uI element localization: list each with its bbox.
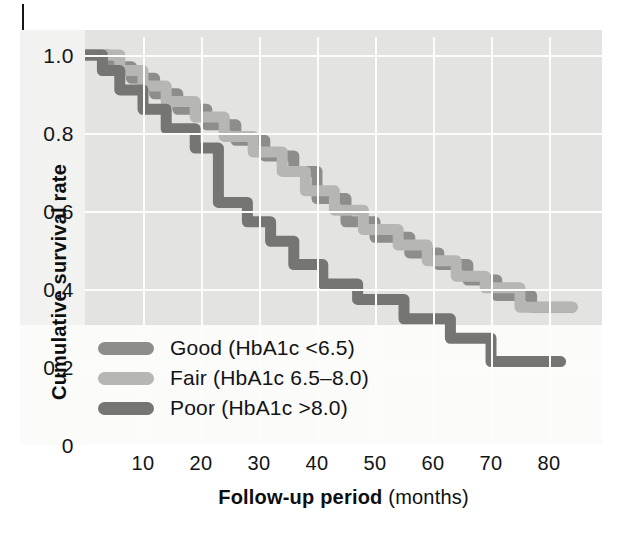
legend-label-good: Good (HbA1c <6.5) (170, 336, 355, 360)
gridline-vertical (549, 37, 551, 445)
legend: Good (HbA1c <6.5) Fair (HbA1c 6.5–8.0) P… (98, 333, 428, 423)
x-tick-label: 50 (355, 452, 395, 475)
gridline-vertical (433, 37, 435, 445)
x-axis-label: Follow-up period (months) (85, 486, 602, 509)
survival-curve (85, 55, 572, 307)
legend-item-poor: Poor (HbA1c >8.0) (98, 393, 428, 423)
y-tick-label: 0 (18, 434, 74, 458)
legend-swatch-good (98, 342, 154, 355)
legend-label-poor: Poor (HbA1c >8.0) (170, 396, 348, 420)
y-tick-label: 0.2 (18, 356, 74, 380)
scan-artifact-mark (22, 4, 24, 33)
x-axis-label-units: (months) (383, 486, 469, 508)
gridline-horizontal (85, 211, 602, 213)
x-axis-label-bold: Follow-up period (218, 486, 382, 508)
x-tick-label: 60 (413, 452, 453, 475)
y-tick-label: 0.8 (18, 122, 74, 146)
gridline-horizontal (85, 289, 602, 291)
y-tick-label: 0.4 (18, 278, 74, 302)
y-tick-label: 0.6 (18, 200, 74, 224)
gridline-vertical (491, 37, 493, 445)
legend-item-fair: Fair (HbA1c 6.5–8.0) (98, 363, 428, 393)
gridline-horizontal (85, 443, 602, 445)
survival-curve (85, 55, 561, 362)
legend-swatch-poor (98, 402, 154, 415)
y-tick-label: 1.0 (18, 44, 74, 68)
x-tick-label: 70 (471, 452, 511, 475)
x-tick-label: 30 (239, 452, 279, 475)
legend-item-good: Good (HbA1c <6.5) (98, 333, 428, 363)
x-tick-label: 10 (123, 452, 163, 475)
gridline-horizontal (85, 55, 602, 57)
x-tick-label: 20 (181, 452, 221, 475)
legend-swatch-fair (98, 372, 154, 385)
x-tick-label: 80 (529, 452, 569, 475)
gridline-horizontal (85, 133, 602, 135)
x-tick-label: 40 (297, 452, 337, 475)
figure-canvas: Cumulative survival rate 1.0 0.8 0.6 0.4… (0, 0, 618, 545)
legend-label-fair: Fair (HbA1c 6.5–8.0) (170, 366, 369, 390)
